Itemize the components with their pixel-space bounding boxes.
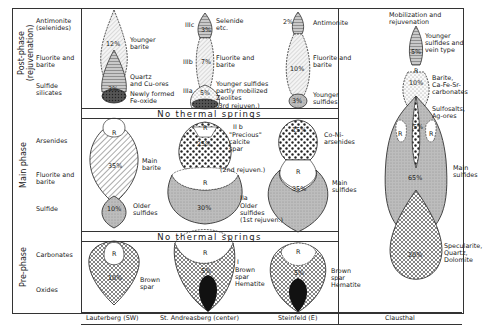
steinfeld-post-pct-top: 2% <box>283 19 293 26</box>
phase-post-subtitle: (rejuvenation) <box>26 25 35 82</box>
clausthal-pct-spec: 20% <box>408 252 422 259</box>
clausthal-pct-top: 5% <box>411 49 421 56</box>
steinfeld-post-pct-bot: 3% <box>292 98 302 105</box>
phase-label-pre: Pre-phase <box>20 237 29 297</box>
andreasberg-pre-pct: 5% <box>201 268 211 275</box>
steinfeld-post-label-mid: Fluorite and barite <box>313 55 351 69</box>
steinfeld-post-label-bot: Younger sulfides <box>313 92 339 106</box>
andreasberg-label-a: Younger sulfides partly mobilized Zeolit… <box>216 81 268 110</box>
lauterberg-main-pct: 35% <box>108 163 122 170</box>
lauterberg-pre-r: R <box>112 251 116 258</box>
phase-label-post: Post-phase (rejuvenation) <box>18 8 35 98</box>
clausthal-label-top: Younger sulfides and vein type <box>425 33 464 55</box>
row-label-carbonates: Carbonates <box>36 252 73 259</box>
lauterberg-pre-pct: 10% <box>108 275 122 282</box>
andreasberg-r-top: R <box>203 125 207 132</box>
lauterberg-main-label-low: Older sulfides <box>133 203 158 217</box>
column-clausthal: Clausthal <box>385 315 415 322</box>
andreasberg-IIIa: IIIa <box>183 88 193 95</box>
steinfeld-post-label-top: Antimonite <box>313 20 348 27</box>
andreasberg-label-c: Selenide etc. <box>216 18 244 32</box>
andreasberg-pct-b-main: 25% <box>197 141 211 148</box>
clausthal-label-barite: Barite, Ca-Fe-Sr- carbonates <box>432 75 468 97</box>
clausthal-header: Mobilization and rejuvenation <box>389 12 441 26</box>
steinfeld-post-pct-mid: 10% <box>290 66 304 73</box>
clausthal-label-sulfosalt: Sulfosalts, Ag-ores <box>432 106 465 120</box>
steinfeld-main-label: Main sulfides <box>332 180 357 194</box>
steinfeld-pre-r: R <box>296 249 300 256</box>
andreasberg-pre-label: Brown spar Hematite <box>235 267 265 289</box>
lauterberg-main-pct-low: 10% <box>107 206 121 213</box>
lauterberg-post-label-mid: Quartz and Cu-ores <box>130 74 169 88</box>
phase-label-main: Main phase <box>20 125 29 205</box>
lauterberg-pre-label: Brown spar <box>140 277 160 291</box>
row-label-sulfide: Sulfide <box>36 206 58 213</box>
andreasberg-r-low: R <box>203 180 207 187</box>
banner-no-thermal-springs-lower: No thermal springs <box>81 232 338 242</box>
clausthal-r-left: R <box>398 131 402 138</box>
row-label-fluorite-post: Fluorite and barite <box>36 55 74 69</box>
andreasberg-rejuv2: (2nd rejuven.) <box>220 167 265 174</box>
andreasberg-label-b-main: "Precious" calcite spar <box>229 132 262 154</box>
steinfeld-main-pct-top: 15% <box>292 127 306 134</box>
clausthal-r-right: R <box>429 131 433 138</box>
andreasberg-pct-b: 7% <box>201 59 211 66</box>
row-label-sulfide-silicates: Sulfide silicates <box>36 83 62 97</box>
footer-divider <box>81 312 462 313</box>
andreasberg-pct-c: 3% <box>201 27 211 34</box>
steinfeld-pre-pct: 5% <box>294 270 304 277</box>
column-andreasberg: St. Andreasberg (center) <box>160 315 239 322</box>
banner-no-thermal-springs-upper: No thermal springs <box>81 109 338 119</box>
phase-column-divider <box>81 8 82 312</box>
lauterberg-post-pct-top: 12% <box>106 41 120 48</box>
clausthal-label-main: Main sulfides <box>453 165 478 179</box>
row-label-oxides: Oxides <box>36 287 58 294</box>
clausthal-pct-barite: 10% <box>409 80 423 87</box>
column-steinfeld: Steinfeld (E) <box>278 315 317 322</box>
andreasberg-IIIb: IIIb <box>183 59 193 66</box>
row-label-arsenides: Arsenides <box>36 138 67 145</box>
andreasberg-pct-a: 5% <box>200 90 210 97</box>
lauterberg-post-pct-mid: 3% <box>108 86 118 93</box>
andreasberg-label-b: Fluorite and barite <box>216 55 254 69</box>
clausthal-r-top: R <box>414 68 418 75</box>
footer-clausthal-divider <box>338 312 339 324</box>
andreasberg-label-a-main: Older sulfides (1st rejuven.) <box>240 203 283 225</box>
row-label-antimonite: Antimonite (selenides) <box>36 18 71 32</box>
row-label-fluorite-main: Fluorite and barite <box>36 172 74 186</box>
lauterberg-post-label-bot: Newly formed Fe-oxide <box>130 91 174 105</box>
lauterberg-post-label-top: Younger barite <box>130 37 156 51</box>
steinfeld-main-r: R <box>296 169 300 176</box>
andreasberg-IIIc: IIIc <box>185 22 194 29</box>
footer-bottom <box>81 324 462 325</box>
andreasberg-pre-r: R <box>203 250 207 257</box>
andreasberg-pct-a-main: 30% <box>197 205 211 212</box>
steinfeld-main-label-top: Co-Ni- arsenides <box>324 132 355 146</box>
lauterberg-main-r: R <box>112 130 116 137</box>
steinfeld-pre-label: Brown spar Hematite <box>331 268 361 290</box>
column-lauterberg: Lauterberg (SW) <box>86 315 139 322</box>
clausthal-label-spec: Specularite, Quartz, Dolomite <box>444 243 482 265</box>
clausthal-pct-main: 65% <box>408 175 422 182</box>
clausthal-pct-sulfosalt: 5% <box>413 124 423 131</box>
steinfeld-main-pct: 35% <box>292 186 306 193</box>
lauterberg-main-label: Main barite <box>142 158 161 172</box>
